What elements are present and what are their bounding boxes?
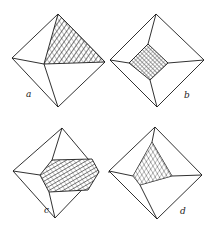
panel-label: b (184, 90, 190, 100)
panel-label: d (180, 206, 186, 216)
panel-label: c (44, 205, 49, 215)
panel-b: b (110, 14, 204, 107)
panel-label: a (26, 89, 31, 99)
panel-a: a (12, 14, 105, 107)
panel-d: d (109, 127, 202, 219)
panel-c: c (13, 128, 110, 218)
crystal-figure: a b c d (0, 0, 215, 230)
